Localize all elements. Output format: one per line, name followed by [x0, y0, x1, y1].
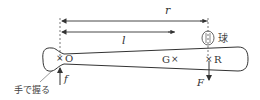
r-label: r	[165, 4, 171, 17]
bat-diagram: r l × O G × × R 球 F f 手で握る	[0, 0, 260, 100]
G-label: G	[162, 54, 170, 65]
ball-label: 球	[218, 32, 228, 44]
F-label: F	[196, 77, 205, 88]
f-label: f	[63, 73, 70, 84]
grip-leader-line	[40, 70, 53, 82]
cross-O: ×	[56, 53, 64, 63]
O-label: O	[65, 53, 73, 64]
l-label: l	[122, 34, 126, 47]
grip-label: 手で握る	[14, 84, 50, 95]
R-label: R	[214, 54, 222, 65]
cross-G: ×	[171, 54, 179, 64]
